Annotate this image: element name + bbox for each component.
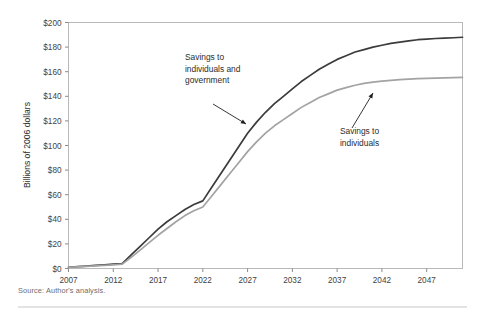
x-tick-label: 2027 bbox=[238, 276, 257, 285]
y-tick-label: $180 bbox=[43, 43, 62, 52]
y-tick-label: $100 bbox=[43, 142, 62, 151]
x-tick-label: 2007 bbox=[59, 276, 78, 285]
y-tick-label: $80 bbox=[48, 166, 62, 175]
bottom-divider bbox=[18, 306, 467, 308]
y-tick-label: $0 bbox=[52, 265, 62, 274]
y-axis-tick-labels: $0$20$40$60$80$100$120$140$160$180$200 bbox=[43, 19, 62, 274]
y-axis-ticks bbox=[65, 23, 69, 269]
annotation-label-savings-to-individuals: Savings to bbox=[340, 126, 379, 136]
y-tick-label: $120 bbox=[43, 117, 62, 126]
annotation-label-savings-to-individuals-and-government: Savings to bbox=[185, 52, 224, 62]
x-tick-label: 2042 bbox=[373, 276, 392, 285]
y-tick-label: $20 bbox=[48, 240, 62, 249]
annotation-label-savings-to-individuals: individuals bbox=[340, 138, 379, 148]
x-tick-label: 2017 bbox=[149, 276, 168, 285]
annotation-label-savings-to-individuals-and-government: government bbox=[185, 75, 230, 85]
annotation-label-savings-to-individuals-and-government: individuals and bbox=[185, 64, 241, 74]
x-tick-label: 2012 bbox=[104, 276, 123, 285]
y-tick-label: $60 bbox=[48, 191, 62, 200]
x-axis-ticks bbox=[69, 269, 427, 273]
y-tick-label: $160 bbox=[43, 68, 62, 77]
figure-container: $0$20$40$60$80$100$120$140$160$180$200 2… bbox=[0, 0, 485, 313]
y-tick-label: $40 bbox=[48, 215, 62, 224]
x-tick-label: 2047 bbox=[418, 276, 437, 285]
y-tick-label: $200 bbox=[43, 19, 62, 28]
x-axis-tick-labels: 200720122017202220272032203720422047 bbox=[59, 276, 436, 285]
y-tick-label: $140 bbox=[43, 92, 62, 101]
plot-area-frame bbox=[69, 23, 463, 269]
line-chart: $0$20$40$60$80$100$120$140$160$180$200 2… bbox=[0, 0, 485, 285]
source-note: Source: Author's analysis. bbox=[18, 286, 105, 295]
x-tick-label: 2022 bbox=[194, 276, 213, 285]
x-tick-label: 2032 bbox=[283, 276, 302, 285]
x-tick-label: 2037 bbox=[328, 276, 347, 285]
y-axis-title: Billions of 2006 dollars bbox=[22, 102, 32, 188]
